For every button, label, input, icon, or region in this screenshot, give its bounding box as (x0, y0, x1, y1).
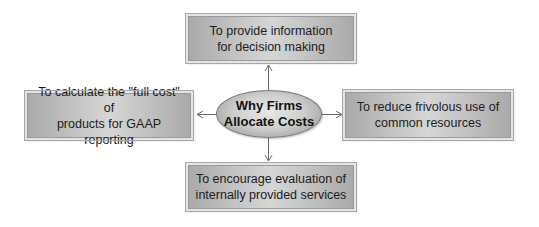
reason-box-full-cost: To calculate the "full cost" of products… (25, 91, 193, 140)
reason-text-line1: To reduce frivolous use of (357, 99, 499, 115)
reason-text-line2: for decision making (210, 39, 333, 55)
reason-box-decision-making: To provide information for decision maki… (186, 14, 356, 63)
reason-text-line1: To encourage evaluation of (196, 171, 347, 187)
reason-box-internal-services: To encourage evaluation of internally pr… (186, 163, 356, 211)
reason-text-line1: To provide information (210, 23, 333, 39)
reason-text-line2: common resources (357, 115, 499, 131)
reason-text-line2: internally provided services (196, 187, 347, 203)
central-topic-ellipse: Why Firms Allocate Costs (216, 90, 322, 138)
reason-text-line2: products for GAAP reporting (33, 116, 185, 148)
reason-text-line1: To calculate the "full cost" of (33, 84, 185, 116)
central-topic-line1: Why Firms (236, 98, 302, 114)
reason-box-frivolous-use: To reduce frivolous use of common resour… (343, 90, 513, 140)
central-topic-line2: Allocate Costs (224, 114, 314, 130)
